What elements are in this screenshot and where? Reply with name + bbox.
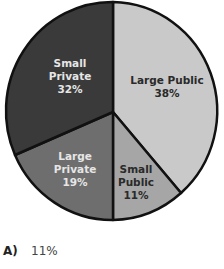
label-large-private-pct: 19% bbox=[54, 176, 97, 189]
label-large-public-line1: Large Public bbox=[130, 74, 203, 87]
answer-letter: A) bbox=[3, 244, 31, 258]
label-large-private-line1: Large bbox=[54, 150, 97, 163]
label-large-private: Large Private 19% bbox=[54, 150, 97, 189]
label-large-private-line2: Private bbox=[54, 163, 97, 176]
label-large-public-pct: 38% bbox=[130, 87, 203, 100]
label-small-public: Small Public 11% bbox=[118, 163, 154, 202]
label-small-private-line2: Private bbox=[49, 70, 92, 83]
pie-chart-svg bbox=[0, 0, 224, 224]
label-small-public-line1: Small bbox=[118, 163, 154, 176]
answer-choice-a[interactable]: A) 11% bbox=[3, 244, 58, 258]
label-small-public-line2: Public bbox=[118, 176, 154, 189]
label-small-public-pct: 11% bbox=[118, 189, 154, 202]
label-large-public: Large Public 38% bbox=[130, 74, 203, 100]
label-small-private-line1: Small bbox=[49, 57, 92, 70]
answer-value: 11% bbox=[31, 244, 58, 258]
pie-chart: Small Private 32% Large Public 38% Large… bbox=[0, 0, 224, 224]
label-small-private: Small Private 32% bbox=[49, 57, 92, 96]
label-small-private-pct: 32% bbox=[49, 83, 92, 96]
